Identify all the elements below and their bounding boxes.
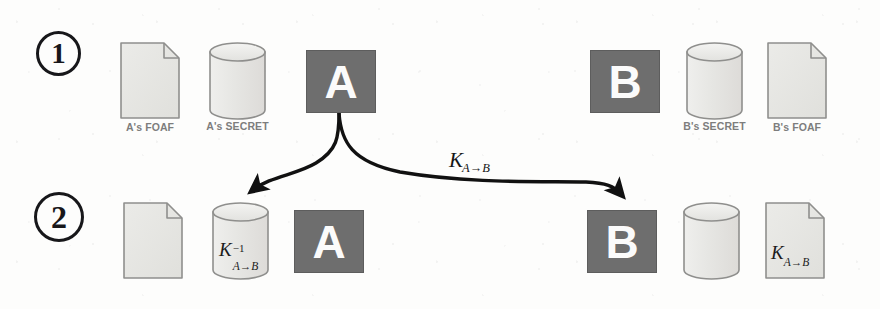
step-1-marker: 1 xyxy=(36,31,81,76)
step-1-number: 1 xyxy=(51,37,66,70)
a-secret-key-label-row2: K−1A→B xyxy=(219,240,232,259)
a-foaf-row1: A's FOAF xyxy=(121,43,179,118)
arrow-a-to-b-label: KA→B xyxy=(449,150,491,171)
key-exchange-diagram: 1 2 A's FOAF A's SECRET B's SECRET B's F… xyxy=(0,0,880,309)
key-base-public: K xyxy=(771,242,784,263)
key-base-inverse: K xyxy=(219,239,232,260)
b-entity-box-row1: B xyxy=(590,50,660,113)
a-foaf-label-row1: A's FOAF xyxy=(126,121,174,133)
a-entity-box-row1: A xyxy=(306,50,376,113)
step-2-marker: 2 xyxy=(34,192,84,242)
a-entity-box-row2: A xyxy=(294,210,364,273)
b-entity-letter-row2: B xyxy=(605,219,638,265)
a-secret-row1: A's SECRET xyxy=(210,43,265,119)
a-secret-label-row1: A's SECRET xyxy=(206,120,268,132)
b-entity-letter-row1: B xyxy=(608,59,641,105)
b-foaf-key-label-row2: KA→B xyxy=(771,243,809,266)
key-subscript-inverse: A→B xyxy=(233,261,259,273)
arrow-key-base: K xyxy=(449,148,463,172)
step-2-number: 2 xyxy=(51,199,67,236)
b-entity-box-row2: B xyxy=(587,210,657,273)
key-subscript-public: A→B xyxy=(784,256,810,268)
a-foaf-document-row2 xyxy=(124,203,182,278)
b-secret-label-row1: B's SECRET xyxy=(683,120,745,132)
a-entity-letter-row1: A xyxy=(324,59,357,105)
b-foaf-row1: B's FOAF xyxy=(768,43,826,118)
a-entity-letter-row2: A xyxy=(312,219,345,265)
b-secret-cylinder-row2 xyxy=(684,203,739,279)
arrow-key-subscript: A→B xyxy=(462,161,490,175)
key-superscript-inverse: −1 xyxy=(233,243,245,254)
b-secret-row1: B's SECRET xyxy=(687,43,742,119)
b-foaf-label-row1: B's FOAF xyxy=(773,121,821,133)
